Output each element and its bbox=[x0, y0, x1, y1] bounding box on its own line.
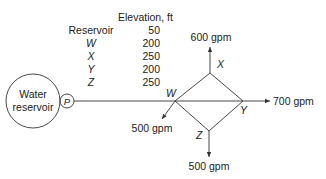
flow-label-w: 500 gpm bbox=[132, 122, 173, 134]
table-row-x-elevation: 250 bbox=[142, 50, 160, 62]
table-row-z-label: Z bbox=[87, 76, 95, 88]
pump-label: P bbox=[64, 96, 71, 107]
table-row-w-label: W bbox=[86, 37, 97, 49]
table-row-y-elevation: 200 bbox=[142, 63, 160, 75]
node-label-z: Z bbox=[195, 129, 203, 141]
node-label-w: W bbox=[166, 87, 177, 99]
flow-label-y: 700 gpm bbox=[273, 95, 314, 107]
table-row-reservoir-elevation: 50 bbox=[148, 24, 160, 36]
table-row-w-elevation: 200 bbox=[142, 37, 160, 49]
flow-label-z: 500 gpm bbox=[189, 160, 230, 172]
pipe-network-diagram: Elevation, ft Reservoir 50 W 200 X 250 Y… bbox=[0, 0, 326, 179]
pipe-z-w bbox=[175, 101, 209, 131]
pipe-x-y bbox=[210, 73, 243, 101]
node-label-y: Y bbox=[240, 104, 248, 116]
table-row-reservoir-label: Reservoir bbox=[69, 24, 114, 36]
water-reservoir: Water reservoir bbox=[6, 74, 60, 128]
outflow-arrow-w bbox=[162, 101, 175, 119]
flow-label-x: 600 gpm bbox=[191, 31, 232, 43]
elevation-table: Elevation, ft Reservoir 50 W 200 X 250 Y… bbox=[69, 11, 173, 88]
pipe-y-z bbox=[209, 101, 243, 131]
table-row-x-label: X bbox=[86, 50, 95, 62]
table-row-y-label: Y bbox=[87, 63, 95, 75]
reservoir-label-line1: Water bbox=[19, 88, 47, 100]
pump: P bbox=[60, 94, 74, 108]
pipe-loop bbox=[175, 73, 243, 131]
pipe-w-x bbox=[175, 73, 210, 101]
diagram-canvas: Elevation, ft Reservoir 50 W 200 X 250 Y… bbox=[0, 0, 326, 179]
table-header-elevation: Elevation, ft bbox=[118, 11, 173, 23]
table-row-z-elevation: 250 bbox=[142, 76, 160, 88]
node-label-x: X bbox=[216, 58, 225, 70]
reservoir-label-line2: reservoir bbox=[13, 101, 54, 113]
